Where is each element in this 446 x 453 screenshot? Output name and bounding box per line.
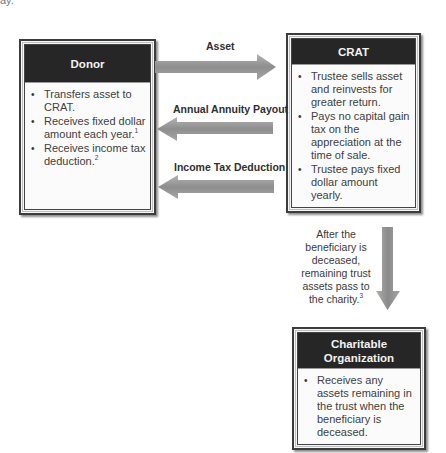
donor-title: Donor [71,57,105,71]
crat-list: Trustee sells asset and reinvests for gr… [298,70,411,202]
charity-title: Charitable Organization [304,337,414,365]
donor-item: Receives fixed dollar amount each year.1 [31,115,146,141]
income-tax-arrow-icon [156,173,276,201]
payout-arrow-icon [155,115,275,143]
crat-box: CRAT Trustee sells asset and reinvests f… [286,33,421,213]
donor-item: Transfers asset to CRAT. [31,88,146,114]
charity-header: Charitable Organization [298,333,420,368]
donor-header: Donor [25,45,150,82]
flow-note: After the beneficiary is deceased, remai… [296,228,376,306]
crat-body: Trustee sells asset and reinvests for gr… [292,64,415,207]
donor-box: Donor Transfers asset to CRAT. Receives … [19,39,156,215]
donor-body: Transfers asset to CRAT. Receives fixed … [25,82,150,173]
down-arrow-icon [374,226,402,312]
crat-item: Trustee pays fixed dollar amount yearly. [298,163,411,202]
income-tax-arrow-label: Income Tax Deduction [174,161,285,173]
crat-item: Pays no capital gain tax on the apprecia… [298,110,411,162]
payout-arrow-label: Annual Annuity Payout [173,103,288,115]
crat-item: Trustee sells asset and reinvests for gr… [298,70,411,109]
crat-header: CRAT [292,39,415,64]
charity-item: Receives any assets remaining in the tru… [304,374,416,439]
asset-arrow-icon [155,52,280,82]
charity-body: Receives any assets remaining in the tru… [298,368,420,444]
donor-item: Receives income tax deduction.2 [31,142,146,168]
cropped-text-fragment: ay. [0,0,14,6]
donor-list: Transfers asset to CRAT. Receives fixed … [31,88,146,168]
asset-arrow-label: Asset [206,40,235,52]
charity-box: Charitable Organization Receives any ass… [292,327,426,450]
crat-title: CRAT [338,45,369,59]
charity-list: Receives any assets remaining in the tru… [304,374,416,439]
